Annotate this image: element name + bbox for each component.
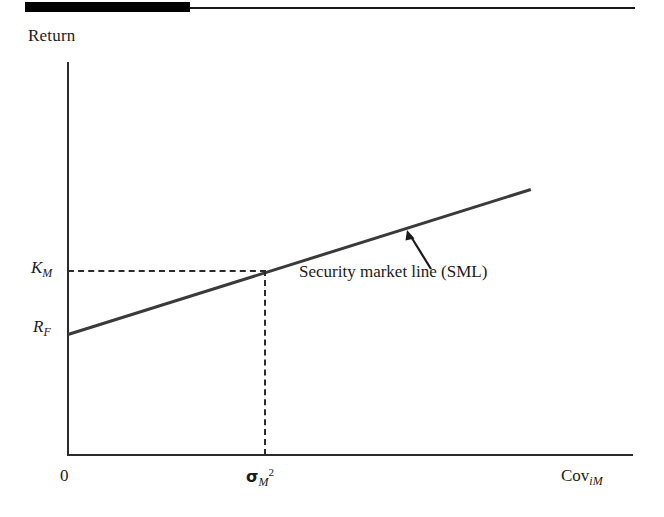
sigma-superscript: 2: [268, 466, 274, 478]
x-axis-title: CoviM: [561, 466, 603, 489]
sigma-subscript: M: [258, 475, 268, 489]
x-value-label-sigma-squared: σM2: [246, 466, 274, 490]
y-axis-line: [67, 62, 69, 456]
km-subscript: M: [42, 266, 52, 280]
rf-variable: R: [33, 317, 43, 336]
y-value-label-rf: RF: [33, 317, 51, 340]
sigma-glyph: σ: [246, 467, 258, 486]
sml-annotation-label: Security market line (SML): [299, 262, 487, 282]
y-axis-title: Return: [28, 26, 75, 46]
km-variable: K: [31, 258, 42, 277]
x-axis-title-main: Cov: [561, 466, 589, 485]
y-value-label-km: KM: [31, 258, 52, 281]
x-axis-line: [67, 454, 633, 456]
sml-figure: Return KM RF 0 σM2 CoviM Security market…: [0, 0, 664, 517]
km-dashed-guide: [68, 270, 266, 272]
sigma-dashed-guide: [264, 270, 266, 455]
header-thick-rule: [25, 2, 190, 12]
x-axis-title-subscript: iM: [589, 474, 602, 488]
rf-subscript: F: [43, 325, 50, 339]
header-thin-rule: [190, 7, 635, 9]
x-axis-origin-label: 0: [60, 466, 69, 486]
